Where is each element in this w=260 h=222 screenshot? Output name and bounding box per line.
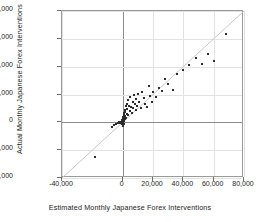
data-point (136, 105, 138, 107)
x-tick-mark (61, 177, 62, 181)
gridline-horizontal (62, 11, 242, 12)
data-point (182, 69, 184, 71)
y-axis-title: Actual Monthly Japanese Forex Interventi… (15, 0, 29, 164)
data-point (137, 93, 139, 95)
scatter-plot-figure: Actual Monthly Japanese Forex Interventi… (0, 0, 260, 222)
data-point (125, 105, 127, 107)
data-point (161, 90, 163, 92)
gridline-vertical (244, 11, 245, 176)
plot-area (61, 10, 243, 177)
data-point (164, 78, 166, 80)
data-point (151, 101, 153, 103)
x-tick-label: -40,000 (31, 180, 91, 187)
data-point (94, 156, 96, 158)
data-point (127, 99, 129, 101)
data-point (135, 98, 137, 100)
data-point (152, 91, 154, 93)
data-point (149, 95, 151, 97)
data-point (146, 106, 148, 108)
y-tick-label: 80,000 (0, 5, 13, 12)
data-point (125, 117, 127, 119)
data-point (140, 107, 142, 109)
gridline-vertical (62, 11, 63, 176)
data-point (135, 109, 137, 111)
data-point (155, 96, 157, 98)
data-point (148, 85, 150, 87)
data-point (172, 89, 174, 91)
y-tick-label: 40,000 (0, 61, 13, 68)
x-axis-title: Estimated Monthly Japanese Forex Interve… (0, 203, 260, 212)
data-point (122, 125, 124, 127)
data-point (138, 101, 140, 103)
data-point (213, 60, 215, 62)
data-point (201, 63, 203, 65)
data-point (158, 87, 160, 89)
data-point (127, 114, 129, 116)
data-point (144, 103, 146, 105)
data-point (133, 94, 135, 96)
data-point (188, 64, 190, 66)
gridline-horizontal (62, 39, 242, 40)
x-tick-label: 80,000 (213, 180, 260, 187)
data-point (143, 97, 145, 99)
y-tick-label: 60,000 (0, 33, 13, 40)
data-point (123, 123, 125, 125)
gridline-horizontal (62, 95, 242, 96)
x-tick-mark (243, 177, 244, 181)
y-tick-label: 20,000 (0, 89, 13, 96)
x-zero-axis-line (123, 11, 124, 176)
gridline-vertical (153, 11, 154, 176)
data-point (129, 96, 131, 98)
y-zero-axis-line (62, 122, 242, 123)
y-tick-label: 0 (0, 116, 13, 123)
data-point (207, 53, 209, 55)
gridline-horizontal (62, 150, 242, 151)
y-tick-label: -20,000 (0, 144, 13, 151)
data-point (225, 33, 227, 35)
y-tick-label: -40,000 (0, 172, 13, 179)
data-point (141, 91, 143, 93)
data-point (131, 112, 133, 114)
data-point (167, 83, 169, 85)
gridline-vertical (214, 11, 215, 176)
data-point (176, 73, 178, 75)
gridline-horizontal (62, 67, 242, 68)
gridline-vertical (183, 11, 184, 176)
data-point (195, 57, 197, 59)
